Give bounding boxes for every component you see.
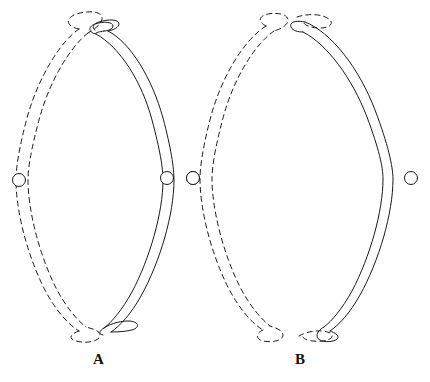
panel-b-label: B — [295, 352, 306, 367]
panelb-node-left-circle — [187, 172, 200, 185]
diagram-svg — [0, 0, 430, 382]
diagram-background — [0, 0, 430, 382]
panelb-node-right-circle — [405, 172, 418, 185]
panel-a-label: A — [93, 352, 104, 367]
node-left-circle — [13, 174, 26, 187]
figure-canvas: A B — [0, 0, 430, 382]
node-right-inner-circle — [161, 172, 174, 185]
